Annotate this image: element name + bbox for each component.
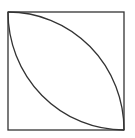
geometry-figure [0,0,135,138]
arc-centered-top-right [8,12,124,130]
arc-centered-bottom-left [8,12,124,130]
square [8,12,124,130]
